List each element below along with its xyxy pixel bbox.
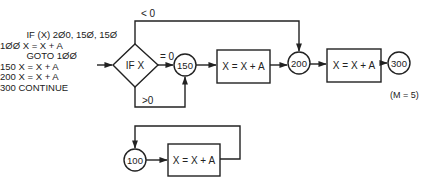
node-100-label: 100 — [127, 155, 143, 166]
less-branch-arrow — [135, 21, 299, 51]
node-200-label: 200 — [291, 58, 307, 69]
flowchart: IF X < 0 = 0 >0 150 X = X + A 200 X = X … — [0, 0, 444, 188]
box3-label: X = X + A — [173, 155, 216, 166]
decision-label: IF X — [126, 60, 145, 71]
equal-zero-label: = 0 — [160, 51, 175, 62]
note-label: (M = 5) — [390, 90, 419, 100]
box1-label: X = X + A — [222, 61, 265, 72]
less-than-zero-label: < 0 — [141, 8, 156, 19]
box2-label: X = X + A — [333, 60, 376, 71]
node-150-label: 150 — [177, 60, 193, 71]
node-300-label: 300 — [391, 58, 407, 69]
greater-than-zero-label: >0 — [142, 95, 154, 106]
